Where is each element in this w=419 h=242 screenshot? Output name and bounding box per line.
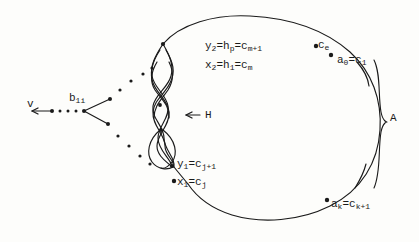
label-h: H <box>205 110 212 121</box>
fork-b1i <box>82 97 112 126</box>
outer-closed-curve <box>163 16 380 220</box>
label-y1: y1=cj+1 <box>177 159 216 171</box>
label-x2: x2=h1=cm <box>205 60 252 72</box>
label-a: A <box>390 113 397 124</box>
v-endpoint <box>50 109 54 113</box>
label-ak: ak=ck+1 <box>331 199 370 211</box>
label-v: v <box>27 99 34 110</box>
label-a0: a0=c1 <box>337 55 366 67</box>
label-y2: y2=hp=cm+1 <box>205 41 262 53</box>
label-ce: ce <box>318 40 329 52</box>
label-b1i: b1i <box>69 93 85 105</box>
upper-dotted-arc <box>118 66 153 91</box>
v-ellipsis-dots <box>59 110 78 113</box>
braid-strands <box>149 44 176 169</box>
label-x1: x1=cj <box>177 177 206 189</box>
lower-dotted-arc <box>116 134 151 165</box>
